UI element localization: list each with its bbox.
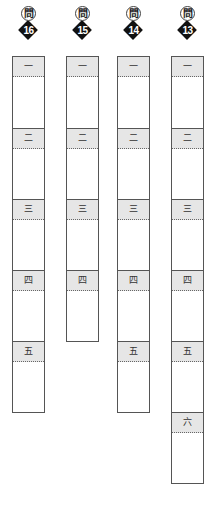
answer-section[interactable]: 五 [118,341,149,412]
answer-section[interactable]: 六 [172,412,203,483]
section-label: 五 [118,342,149,362]
answer-section[interactable]: 三 [13,199,44,270]
answer-field[interactable] [118,362,149,412]
answer-box: 一 二 三 四 五 六 [171,56,204,484]
section-label: 五 [172,342,203,362]
diamond-icon: 15 [73,21,92,40]
answer-section[interactable]: 一 [67,57,98,128]
answer-field[interactable] [118,77,149,127]
answer-field[interactable] [172,433,203,483]
question-number: 14 [124,21,143,40]
answer-section[interactable]: 一 [118,57,149,128]
answer-section[interactable]: 二 [118,128,149,199]
question-label-circle: 問 [75,6,90,21]
section-label: 四 [172,271,203,291]
answer-section[interactable]: 四 [67,270,98,341]
answer-section[interactable]: 一 [172,57,203,128]
question-number: 13 [178,21,197,40]
diamond-icon: 16 [19,21,38,40]
answer-box: 一 二 三 四 五 [12,56,45,413]
section-label: 一 [172,57,203,77]
answer-field[interactable] [67,149,98,199]
answer-section[interactable]: 五 [172,341,203,412]
answer-field[interactable] [118,149,149,199]
answer-section[interactable]: 四 [13,270,44,341]
question-label-circle: 問 [180,6,195,21]
diamond-icon: 13 [178,21,197,40]
section-label: 三 [13,200,44,220]
question-number: 15 [73,21,92,40]
question-label-circle: 問 [126,6,141,21]
question-badge: 問 14 [117,0,150,46]
answer-field[interactable] [172,291,203,341]
question-badge: 問 16 [12,0,45,46]
answer-field[interactable] [172,149,203,199]
section-label: 三 [67,200,98,220]
answer-section[interactable]: 三 [118,199,149,270]
answer-section[interactable]: 三 [67,199,98,270]
answer-section[interactable]: 三 [172,199,203,270]
section-label: 一 [67,57,98,77]
answer-field[interactable] [67,291,98,341]
section-label: 一 [118,57,149,77]
section-label: 六 [172,413,203,433]
answer-section[interactable]: 二 [67,128,98,199]
answer-field[interactable] [172,77,203,127]
answer-section[interactable]: 五 [13,341,44,412]
section-label: 四 [118,271,149,291]
question-badge: 問 15 [66,0,99,46]
answer-field[interactable] [118,291,149,341]
answer-section[interactable]: 二 [13,128,44,199]
section-label: 二 [172,129,203,149]
section-label: 三 [172,200,203,220]
question-label-circle: 問 [21,6,36,21]
answer-field[interactable] [67,220,98,270]
answer-section[interactable]: 四 [172,270,203,341]
section-label: 五 [13,342,44,362]
answer-box: 一 二 三 四 五 [117,56,150,413]
diamond-icon: 14 [124,21,143,40]
section-label: 二 [67,129,98,149]
question-badge: 問 13 [171,0,204,46]
section-label: 四 [67,271,98,291]
section-label: 二 [13,129,44,149]
question-number: 16 [19,21,38,40]
answer-field[interactable] [13,220,44,270]
answer-field[interactable] [118,220,149,270]
answer-field[interactable] [172,220,203,270]
answer-box: 一 二 三 四 [66,56,99,342]
answer-field[interactable] [13,291,44,341]
answer-section[interactable]: 四 [118,270,149,341]
section-label: 四 [13,271,44,291]
section-label: 一 [13,57,44,77]
section-label: 二 [118,129,149,149]
answer-section[interactable]: 二 [172,128,203,199]
answer-field[interactable] [13,149,44,199]
answer-section[interactable]: 一 [13,57,44,128]
answer-field[interactable] [172,362,203,412]
answer-field[interactable] [13,362,44,412]
section-label: 三 [118,200,149,220]
answer-field[interactable] [13,77,44,127]
answer-field[interactable] [67,77,98,127]
